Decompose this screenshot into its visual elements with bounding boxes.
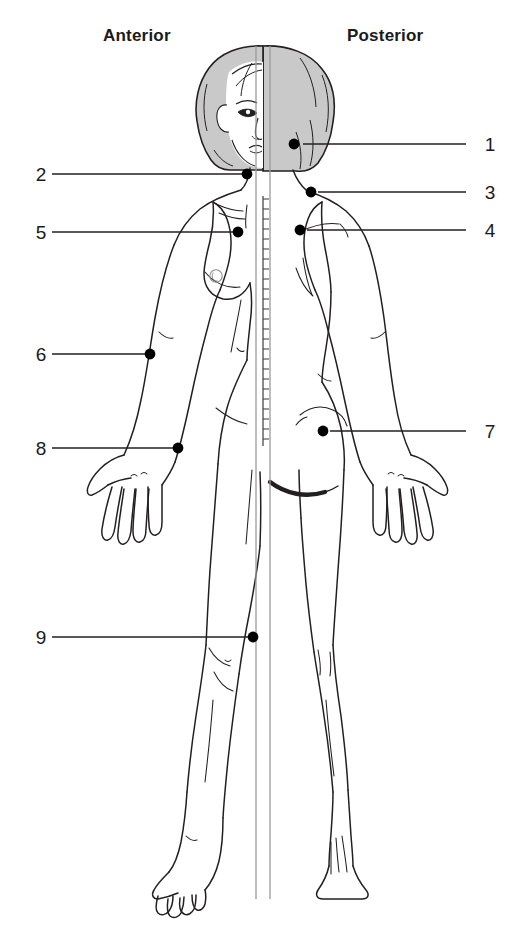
view-split-line (256, 46, 270, 899)
tender-point-dot-1[interactable] (289, 139, 300, 150)
tender-point-dot-4[interactable] (295, 225, 306, 236)
tender-point-label-2: 2 (31, 165, 51, 184)
marker-dots-group (145, 139, 329, 643)
tender-point-dot-7[interactable] (318, 426, 329, 437)
tender-point-dot-9[interactable] (248, 632, 259, 643)
tender-point-label-9: 9 (31, 628, 51, 647)
tender-point-dot-6[interactable] (145, 349, 156, 360)
tender-point-label-1: 1 (480, 135, 500, 154)
tender-point-label-6: 6 (31, 345, 51, 364)
anterior-body-outline (87, 168, 261, 917)
tender-point-dot-2[interactable] (242, 169, 253, 180)
leader-lines-group (52, 144, 466, 637)
hair-shape (196, 46, 334, 171)
tender-point-label-8: 8 (31, 439, 51, 458)
posterior-body-outline (293, 170, 448, 899)
tender-point-dot-8[interactable] (173, 443, 184, 454)
tender-point-dot-5[interactable] (233, 227, 244, 238)
spine-midline (263, 196, 269, 446)
body-figure (0, 0, 521, 939)
tender-point-diagram: Anterior Posterior (0, 0, 521, 939)
tender-point-label-7: 7 (480, 422, 500, 441)
tender-point-label-3: 3 (480, 183, 500, 202)
tender-point-label-4: 4 (480, 221, 500, 240)
tender-point-label-5: 5 (31, 223, 51, 242)
tender-point-dot-3[interactable] (306, 187, 317, 198)
